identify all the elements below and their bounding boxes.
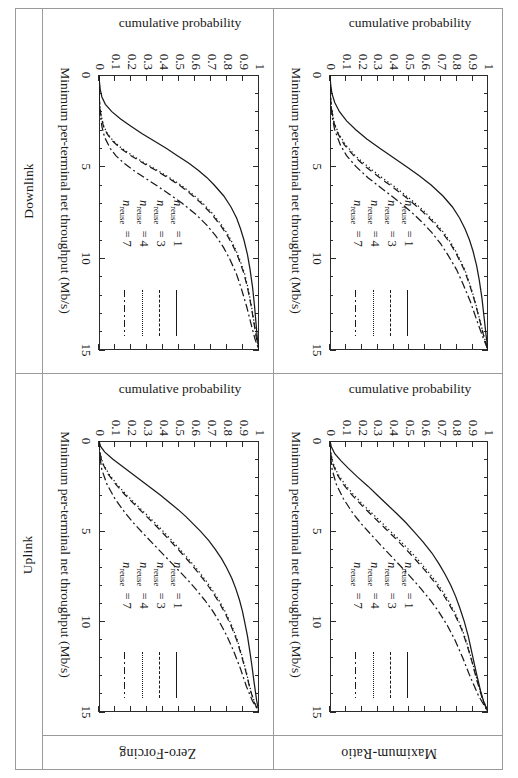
legend-item: nreuse = 1 <box>399 200 416 342</box>
legend: nreuse = 1nreuse = 3nreuse = 4nreuse = 7 <box>117 200 185 342</box>
legend-line-dashdot <box>124 652 126 698</box>
legend-item: nreuse = 1 <box>168 562 185 704</box>
legend-label: nreuse = 4 <box>135 562 152 609</box>
legend-label: nreuse = 4 <box>135 200 152 247</box>
legend-item: nreuse = 4 <box>365 562 382 704</box>
legend-line-dashdot <box>355 290 357 336</box>
legend-item: nreuse = 3 <box>151 200 168 342</box>
panel-downlink-zero-forcing: 051015Minimum per-terminal net throughpu… <box>43 9 273 372</box>
legend-line-solid <box>407 290 408 336</box>
legend-label: nreuse = 4 <box>366 562 383 609</box>
legend-label: nreuse = 3 <box>152 200 169 247</box>
legend-item: nreuse = 4 <box>365 200 382 342</box>
row-label-zero-forcing-text: Zero-Forcing <box>119 745 196 761</box>
legend-label: nreuse = 1 <box>400 562 417 609</box>
legend-label: nreuse = 7 <box>118 200 135 247</box>
legend-label: nreuse = 3 <box>383 562 400 609</box>
row-label-maximum-ratio-text: Maximum-Ratio <box>341 745 437 761</box>
legend-label: nreuse = 4 <box>366 200 383 247</box>
figure-canvas: Downlink Uplink Zero-Forcing Maximum-Rat… <box>0 0 518 778</box>
plot-uplink-maximum-ratio: 051015Minimum per-terminal net throughpu… <box>274 375 502 734</box>
column-header-uplink-label: Uplink <box>21 535 37 574</box>
column-header-downlink: Downlink <box>15 8 42 373</box>
row-label-zero-forcing: Zero-Forcing <box>43 736 273 770</box>
legend-line-dotted <box>373 290 374 336</box>
legend-item: nreuse = 7 <box>348 200 365 342</box>
legend-line-solid <box>176 652 177 698</box>
legend-item: nreuse = 4 <box>134 562 151 704</box>
panel-uplink-maximum-ratio: 051015Minimum per-terminal net throughpu… <box>274 375 502 734</box>
legend-line-dotted <box>142 652 143 698</box>
legend-line-dashdot <box>355 652 357 698</box>
legend-label: nreuse = 3 <box>152 562 169 609</box>
legend-label: nreuse = 7 <box>349 562 366 609</box>
column-header-downlink-label: Downlink <box>21 163 37 219</box>
legend-line-dotted <box>373 652 374 698</box>
legend-line-dashed <box>159 652 160 698</box>
column-divider <box>15 373 503 374</box>
legend-label: nreuse = 3 <box>383 200 400 247</box>
legend-label: nreuse = 1 <box>400 200 417 247</box>
legend-item: nreuse = 7 <box>348 562 365 704</box>
legend-item: nreuse = 4 <box>134 200 151 342</box>
plot-downlink-maximum-ratio: 051015Minimum per-terminal net throughpu… <box>274 9 502 372</box>
legend-item: nreuse = 1 <box>168 200 185 342</box>
legend-label: nreuse = 7 <box>118 562 135 609</box>
legend: nreuse = 1nreuse = 3nreuse = 4nreuse = 7 <box>348 562 416 704</box>
legend-item: nreuse = 7 <box>117 200 134 342</box>
legend-line-dashed <box>159 290 160 336</box>
panel-downlink-maximum-ratio: 051015Minimum per-terminal net throughpu… <box>274 9 502 372</box>
plot-uplink-zero-forcing: 051015Minimum per-terminal net throughpu… <box>43 375 273 734</box>
legend: nreuse = 1nreuse = 3nreuse = 4nreuse = 7 <box>117 562 185 704</box>
legend-item: nreuse = 1 <box>399 562 416 704</box>
legend-line-dashdot <box>124 290 126 336</box>
legend-line-solid <box>176 290 177 336</box>
legend-line-dashed <box>390 290 391 336</box>
legend-line-dashed <box>390 652 391 698</box>
legend-item: nreuse = 3 <box>382 562 399 704</box>
legend: nreuse = 1nreuse = 3nreuse = 4nreuse = 7 <box>348 200 416 342</box>
legend-line-dotted <box>142 290 143 336</box>
legend-item: nreuse = 7 <box>117 562 134 704</box>
legend-label: nreuse = 7 <box>349 200 366 247</box>
panel-uplink-zero-forcing: 051015Minimum per-terminal net throughpu… <box>43 375 273 734</box>
legend-label: nreuse = 1 <box>169 200 186 247</box>
column-header-uplink: Uplink <box>15 374 42 735</box>
legend-label: nreuse = 1 <box>169 562 186 609</box>
legend-item: nreuse = 3 <box>151 562 168 704</box>
row-label-maximum-ratio: Maximum-Ratio <box>274 736 503 770</box>
plot-downlink-zero-forcing: 051015Minimum per-terminal net throughpu… <box>43 9 273 372</box>
legend-item: nreuse = 3 <box>382 200 399 342</box>
legend-line-solid <box>407 652 408 698</box>
